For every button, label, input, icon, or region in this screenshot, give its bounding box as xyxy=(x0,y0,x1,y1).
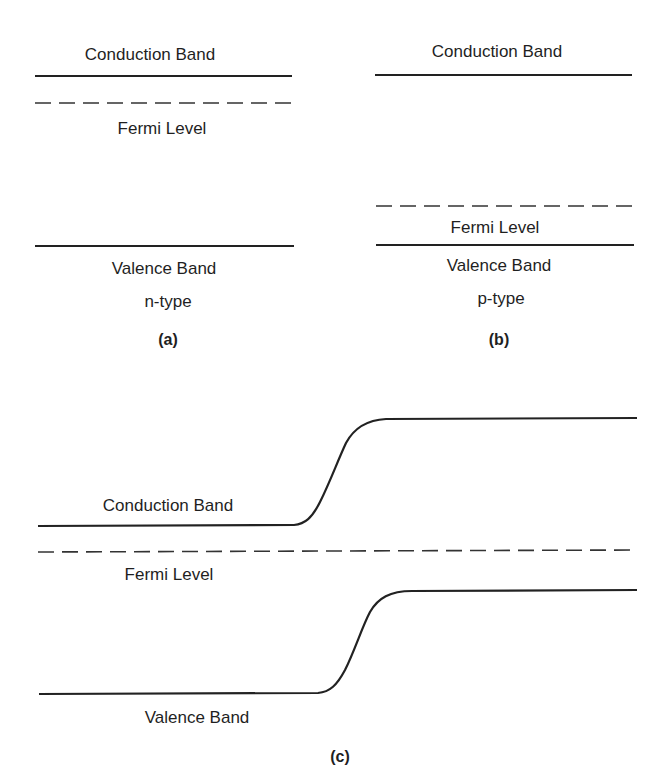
panel-c-fermi-label: Fermi Level xyxy=(125,565,214,584)
panel-b-valence-label: Valence Band xyxy=(447,256,552,275)
panel-a-type-label: n-type xyxy=(144,292,191,311)
panel-c-valence-band-curve xyxy=(39,590,637,694)
panel-c-valence-label: Valence Band xyxy=(145,708,250,727)
band-diagram: Conduction Band Fermi Level Valence Band… xyxy=(0,0,664,779)
panel-c-junction: Conduction Band Fermi Level Valence Band… xyxy=(38,418,637,765)
panel-c-caption: (c) xyxy=(330,748,350,765)
panel-a-fermi-label: Fermi Level xyxy=(118,119,207,138)
panel-b-fermi-label: Fermi Level xyxy=(451,218,540,237)
panel-a-conduction-label: Conduction Band xyxy=(85,45,215,64)
panel-b-type-label: p-type xyxy=(477,289,524,308)
panel-b-conduction-label: Conduction Band xyxy=(432,42,562,61)
panel-b-p-type: Conduction Band Fermi Level Valence Band… xyxy=(375,42,634,348)
panel-a-valence-label: Valence Band xyxy=(112,259,217,278)
panel-c-conduction-label: Conduction Band xyxy=(103,496,233,515)
panel-a-n-type: Conduction Band Fermi Level Valence Band… xyxy=(35,45,294,348)
panel-a-caption: (a) xyxy=(158,331,178,348)
panel-c-fermi-level-line xyxy=(38,550,637,552)
panel-b-caption: (b) xyxy=(489,331,509,348)
